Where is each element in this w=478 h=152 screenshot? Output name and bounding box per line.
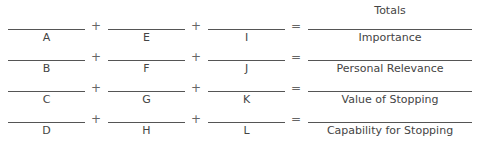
equals-sign: = (290, 19, 302, 33)
plus-sign: + (190, 50, 202, 64)
score-blank[interactable] (208, 9, 285, 30)
equals-sign: = (290, 112, 302, 126)
score-blank[interactable] (8, 71, 85, 92)
equation-row: C+G+K=Value of Stopping (0, 71, 478, 102)
plus-sign: + (190, 81, 202, 95)
total-blank[interactable] (308, 40, 472, 61)
plus-sign: + (190, 19, 202, 33)
equation-row: D+H+L=Capability for Stopping (0, 102, 478, 133)
score-blank[interactable] (108, 71, 185, 92)
score-blank[interactable] (8, 40, 85, 61)
score-blank[interactable] (108, 9, 185, 30)
score-blank[interactable] (208, 40, 285, 61)
plus-sign: + (90, 19, 102, 33)
score-blank[interactable] (8, 102, 85, 123)
plus-sign: + (90, 81, 102, 95)
score-label: H (108, 124, 185, 137)
equals-sign: = (290, 81, 302, 95)
total-label: Capability for Stopping (308, 124, 472, 137)
total-blank[interactable] (308, 102, 472, 123)
score-blank[interactable] (208, 102, 285, 123)
score-label: D (8, 124, 85, 137)
equals-sign: = (290, 50, 302, 64)
score-blank[interactable] (208, 71, 285, 92)
total-blank[interactable] (308, 71, 472, 92)
plus-sign: + (190, 112, 202, 126)
score-blank[interactable] (108, 40, 185, 61)
plus-sign: + (90, 112, 102, 126)
equation-row: B+F+J=Personal Relevance (0, 40, 478, 71)
total-blank[interactable] (308, 9, 472, 30)
plus-sign: + (90, 50, 102, 64)
equation-row: A+E+I=Importance (0, 9, 478, 40)
score-blank[interactable] (8, 9, 85, 30)
score-blank[interactable] (108, 102, 185, 123)
score-label: L (208, 124, 285, 137)
